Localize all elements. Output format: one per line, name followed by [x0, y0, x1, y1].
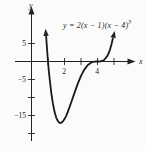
x-axis-arrow-icon: [128, 59, 136, 65]
y-tick-label: 5: [22, 39, 26, 48]
figure-graph: xy245−5−15 y = 2(x − 1)(x − 4)3: [0, 0, 145, 151]
curve-left-arrow-icon: [43, 29, 48, 36]
equation-exponent: 3: [128, 19, 131, 25]
x-axis-label: x: [138, 57, 143, 66]
y-tick-label: −15: [14, 111, 26, 120]
y-tick-label: −5: [18, 75, 26, 84]
function-curve: [46, 33, 113, 123]
x-tick-label: 2: [62, 67, 66, 76]
x-tick-label: 4: [95, 67, 99, 76]
y-axis-label: y: [28, 1, 33, 10]
curve-right-arrow-icon: [110, 31, 115, 38]
equation-body: y = 2(x − 1)(x − 4): [63, 21, 128, 30]
equation-label: y = 2(x − 1)(x − 4)3: [63, 21, 131, 30]
